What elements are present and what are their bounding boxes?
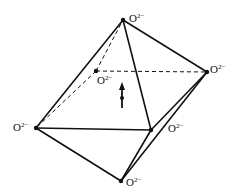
label-right-oxygen: O2− [210, 64, 225, 75]
label-charge: 2− [21, 121, 28, 129]
octahedron-diagram: O2− O2− O2− O2− O2− O2− [0, 0, 237, 196]
edge-left-front [36, 128, 151, 130]
label-back-oxygen: O2− [97, 75, 112, 86]
hidden-edge-back-left [36, 71, 96, 128]
edge-top-front [123, 20, 151, 130]
label-bottom-oxygen: O2− [126, 177, 141, 188]
label-element: O [97, 74, 105, 86]
label-charge: 2− [134, 176, 141, 184]
label-element: O [126, 176, 134, 188]
edge-front-bottom [121, 130, 151, 181]
edge-right-bottom [121, 72, 207, 181]
vertex-dot-right [205, 70, 209, 74]
label-top-oxygen: O2− [129, 13, 144, 24]
label-charge: 2− [176, 122, 183, 130]
vertex-dot-front [149, 128, 153, 132]
octahedron-drawing [0, 0, 237, 196]
label-front-oxygen: O2− [168, 123, 183, 134]
label-charge: 2− [137, 12, 144, 20]
label-charge: 2− [105, 74, 112, 82]
hidden-edge-back-top [96, 20, 123, 71]
label-element: O [168, 122, 176, 134]
edge-left-bottom [36, 128, 121, 181]
vertex-dot-top [121, 18, 125, 22]
central-ion-arrow-icon [119, 82, 125, 108]
vertex-dot-bottom [119, 179, 123, 183]
vertex-dot-back [94, 69, 98, 73]
label-left-oxygen: O2− [13, 122, 28, 133]
edge-top-right [123, 20, 207, 72]
label-element: O [129, 12, 137, 24]
label-element: O [13, 121, 21, 133]
label-charge: 2− [218, 63, 225, 71]
label-element: O [210, 63, 218, 75]
vertex-dot-left [34, 126, 38, 130]
hidden-edge-back-right [96, 71, 207, 72]
